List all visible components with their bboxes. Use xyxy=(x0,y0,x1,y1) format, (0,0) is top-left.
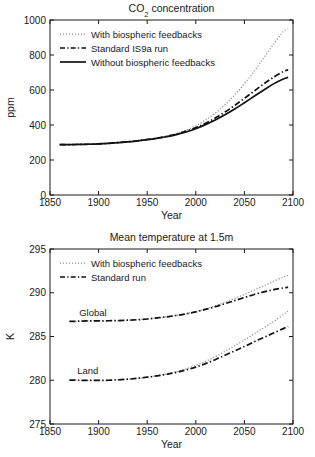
x-tick-label: 2050 xyxy=(233,426,256,437)
legend-label: Standard IS9a run xyxy=(91,43,168,54)
figure-container: CO2 concentration18501900195020002050210… xyxy=(0,0,315,457)
x-tick-label: 2000 xyxy=(185,426,208,437)
chart-temperature-svg: Mean temperature at 1.5m1850190019502000… xyxy=(0,228,315,457)
x-axis-label: Year xyxy=(161,209,183,221)
x-tick-label: 1900 xyxy=(87,197,110,208)
series-line xyxy=(60,77,288,144)
y-axis-label: ppm xyxy=(4,97,16,118)
y-tick-label: 285 xyxy=(29,331,46,342)
legend-label: With biospheric feedbacks xyxy=(91,29,202,40)
chart-co2-svg: CO2 concentration18501900195020002050210… xyxy=(0,0,315,228)
x-tick-label: 1950 xyxy=(136,426,159,437)
series-line xyxy=(60,70,288,145)
series-line xyxy=(69,326,288,380)
y-tick-label: 400 xyxy=(29,120,46,131)
x-tick-label: 2100 xyxy=(282,197,305,208)
series-line xyxy=(69,311,288,380)
y-tick-label: 200 xyxy=(29,155,46,166)
x-tick-label: 2050 xyxy=(233,197,256,208)
chart-co2-concentration: CO2 concentration18501900195020002050210… xyxy=(0,0,315,228)
y-tick-label: 295 xyxy=(29,244,46,255)
plot-frame xyxy=(50,20,293,195)
y-tick-label: 0 xyxy=(40,190,46,201)
x-tick-label: 1900 xyxy=(87,426,110,437)
inline-annotation: Land xyxy=(77,365,98,376)
x-axis-label: Year xyxy=(161,438,183,450)
chart-title: Mean temperature at 1.5m xyxy=(110,231,234,243)
legend-label: With biospheric feedbacks xyxy=(91,258,202,269)
y-tick-label: 275 xyxy=(29,419,46,430)
y-tick-label: 1000 xyxy=(24,15,47,26)
y-tick-label: 800 xyxy=(29,50,46,61)
legend-label: Without biospheric feedbacks xyxy=(91,57,215,68)
y-tick-label: 600 xyxy=(29,85,46,96)
y-tick-label: 280 xyxy=(29,375,46,386)
plot-frame xyxy=(50,249,293,424)
y-axis-label: K xyxy=(4,333,16,340)
inline-annotation: Global xyxy=(79,307,106,318)
x-tick-label: 1950 xyxy=(136,197,159,208)
chart-title: CO2 concentration xyxy=(129,2,215,19)
chart-mean-temperature: Mean temperature at 1.5m1850190019502000… xyxy=(0,228,315,457)
x-tick-label: 2100 xyxy=(282,426,305,437)
legend-label: Standard run xyxy=(91,272,146,283)
x-tick-label: 2000 xyxy=(185,197,208,208)
y-tick-label: 290 xyxy=(29,287,46,298)
